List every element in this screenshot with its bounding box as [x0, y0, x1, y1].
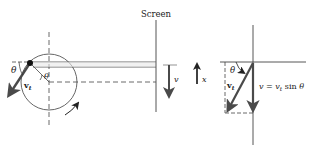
- label-x: x: [202, 75, 207, 84]
- label-theta-right: θ: [230, 65, 235, 75]
- label-vt-right: vt: [226, 80, 235, 91]
- rotation-direction-arrow: [65, 103, 78, 115]
- velocity-decomposition-group: θ vt v = vt sin θ: [220, 25, 306, 145]
- screen-group: Screen v x: [141, 9, 207, 112]
- label-v-screen: v: [174, 75, 179, 84]
- light-source-dot: [27, 60, 33, 66]
- label-vt-left: vt: [23, 80, 32, 91]
- beam-band: [33, 62, 156, 67]
- right-theta-arc: [236, 62, 244, 73]
- screen-label: Screen: [141, 9, 172, 19]
- label-theta-inner: θ: [44, 72, 49, 81]
- label-theta-outer: θ: [11, 65, 17, 75]
- inner-theta-arc: [40, 75, 42, 80]
- equation-label: v = vt sin θ: [259, 82, 304, 92]
- rotating-disk-group: θ θ vt: [9, 32, 156, 126]
- physics-diagram: θ θ vt Screen v x θ vt v = vt s: [0, 0, 318, 153]
